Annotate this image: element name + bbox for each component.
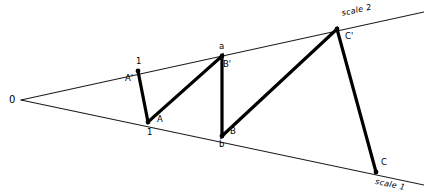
point-label-C-0: C [381, 158, 387, 167]
point-label-C-prime-0: C' [345, 32, 353, 41]
point-label-b-1: b [219, 140, 224, 149]
vertex-b [220, 134, 225, 139]
scale-diagram: 0 scale 1 scale 2 1A'A1aB'BbC'C [0, 0, 424, 196]
zigzag-group [138, 29, 376, 172]
vertex-A-prime [136, 69, 141, 74]
point-label-A-1: 1 [147, 128, 152, 137]
point-label-A-prime-0: 1 [136, 57, 141, 66]
point-label-A-prime-1: A' [125, 74, 133, 83]
origin-label: 0 [9, 95, 15, 105]
point-label-A-0: A [157, 115, 163, 124]
vertex-C [374, 170, 379, 175]
point-label-a-0: a [219, 42, 224, 51]
vertex-a [220, 54, 225, 59]
point-label-a-1: B' [223, 60, 231, 69]
point-label-b-0: B [230, 127, 236, 136]
vertex-C-prime [335, 27, 340, 32]
diagram-canvas [0, 0, 424, 196]
construction-zigzag-path [138, 29, 376, 172]
vertex-A [146, 120, 151, 125]
